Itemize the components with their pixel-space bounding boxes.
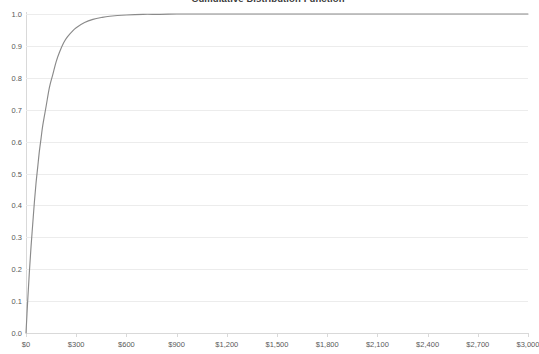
y-axis-tick-label: 0.1 — [0, 297, 22, 306]
x-axis-tick-label: $2,700 — [466, 340, 489, 349]
x-axis-tick-label: $600 — [118, 340, 135, 349]
y-axis-tick-label: 0.6 — [0, 137, 22, 146]
gridline — [26, 333, 528, 334]
y-axis-tick-label: 0.7 — [0, 105, 22, 114]
x-axis-tick-label: $1,800 — [316, 340, 339, 349]
y-axis-tick-label: 0.8 — [0, 73, 22, 82]
y-axis-tick-label: 0.9 — [0, 41, 22, 50]
y-axis-tick-label: 0.2 — [0, 265, 22, 274]
x-axis-tick-label: $2,400 — [416, 340, 439, 349]
y-axis-tick-label: 0.0 — [0, 329, 22, 338]
y-axis-tick-label: 0.4 — [0, 201, 22, 210]
x-axis-tick-label: $2,100 — [366, 340, 389, 349]
plot-area — [26, 14, 528, 333]
chart-title: Cumulative Distribution Function — [0, 0, 536, 4]
x-axis-tick-label: $900 — [168, 340, 185, 349]
x-axis-tick-label: $3,000 — [517, 340, 539, 349]
y-axis-tick-label: 0.3 — [0, 233, 22, 242]
x-axis-tick-label: $1,200 — [215, 340, 238, 349]
x-axis-tick-label: $300 — [68, 340, 85, 349]
y-axis-tick-label: 0.5 — [0, 169, 22, 178]
y-axis-tick-label: 1.0 — [0, 10, 22, 19]
x-axis-tick-label: $1,500 — [266, 340, 289, 349]
cdf-curve — [26, 14, 528, 333]
x-axis-tick-label: $0 — [22, 340, 30, 349]
x-axis-tick-mark — [528, 333, 529, 337]
